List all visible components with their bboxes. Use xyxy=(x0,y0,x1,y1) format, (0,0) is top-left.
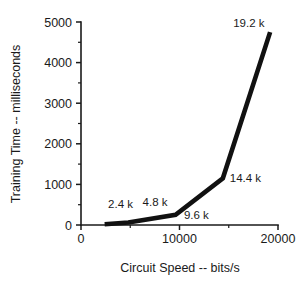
y-tick-label: 5000 xyxy=(44,16,72,30)
chart-figure: 010002000300040005000 01000020000 2.4 k4… xyxy=(0,0,299,285)
x-tick-label: 0 xyxy=(78,232,85,246)
line-chart: 010002000300040005000 01000020000 2.4 k4… xyxy=(0,0,299,285)
x-tick-label: 10000 xyxy=(162,232,197,246)
x-axis-title: Circuit Speed -- bits/s xyxy=(120,261,239,275)
data-point-label: 4.8 k xyxy=(143,196,168,208)
data-point-label: 14.4 k xyxy=(230,172,262,184)
x-tick-label: 20000 xyxy=(261,232,296,246)
y-tick-label: 3000 xyxy=(44,97,72,111)
y-tick-label: 2000 xyxy=(44,137,72,151)
y-axis-title: Training Time -- milliseconds xyxy=(9,45,23,204)
y-tick-label: 0 xyxy=(65,219,72,233)
data-point-label: 9.6 k xyxy=(184,209,209,221)
data-point-label: 19.2 k xyxy=(233,17,265,29)
y-tick-label: 1000 xyxy=(44,178,72,192)
data-point-label: 2.4 k xyxy=(108,198,133,210)
y-tick-label: 4000 xyxy=(44,56,72,70)
